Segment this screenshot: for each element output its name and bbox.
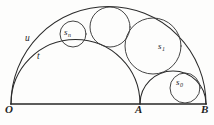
geometry-canvas xyxy=(0,0,214,125)
label-circle-sn-base: s xyxy=(64,27,68,37)
semicircle-ab xyxy=(140,71,206,104)
circle-s2 xyxy=(90,7,130,47)
label-circle-s1-base: s xyxy=(158,41,162,51)
label-arc-u: u xyxy=(25,34,30,44)
label-circle-sn-subscript: n xyxy=(68,32,71,38)
circle-s0 xyxy=(170,73,200,103)
label-circle-s0: s0 xyxy=(176,78,183,87)
inner-semicircle-t xyxy=(11,40,140,105)
label-circle-s0-subscript: 0 xyxy=(180,82,183,88)
arbelos-figure: O A B u t sn s1 s0 xyxy=(0,0,214,125)
circle-s1 xyxy=(125,18,181,74)
label-arc-t: t xyxy=(37,52,40,62)
label-circle-s1: s1 xyxy=(158,42,165,51)
label-point-o: O xyxy=(5,104,13,115)
label-point-a: A xyxy=(135,104,142,115)
label-circle-s0-base: s xyxy=(176,77,180,87)
label-circle-s1-subscript: 1 xyxy=(162,46,165,52)
outer-semicircle-u xyxy=(11,7,206,104)
label-point-b: B xyxy=(201,104,208,115)
label-circle-sn: sn xyxy=(64,28,71,37)
